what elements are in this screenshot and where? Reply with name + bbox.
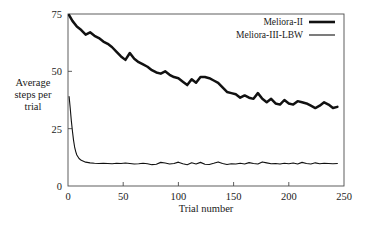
legend-label-meliora-ii: Meliora-II xyxy=(263,17,303,27)
x-tick-label: 250 xyxy=(336,191,352,202)
x-tick-label: 0 xyxy=(65,191,70,202)
x-axis-title: Trial number xyxy=(179,203,234,214)
chart-figure: 050100150200250 0255075 Trial number Ave… xyxy=(0,0,368,228)
x-tick-label: 50 xyxy=(118,191,129,202)
y-axis-title-line3: trial xyxy=(25,101,42,112)
x-tick-label: 200 xyxy=(281,191,297,202)
legend: Meliora-II Meliora-III-LBW xyxy=(236,17,335,40)
x-axis-ticks: 050100150200250 xyxy=(65,182,352,202)
x-tick-label: 150 xyxy=(226,191,242,202)
series-line-meliora-iii-lbw xyxy=(69,97,337,165)
y-tick-label: 25 xyxy=(52,124,63,135)
y-axis-title-line1: Average xyxy=(16,77,51,88)
line-chart: 050100150200250 0255075 Trial number Ave… xyxy=(0,0,368,228)
x-tick-label: 100 xyxy=(171,191,187,202)
y-axis-ticks: 0255075 xyxy=(52,9,73,192)
y-tick-label: 50 xyxy=(52,66,63,77)
y-axis-title-line2: steps per xyxy=(14,89,52,100)
y-tick-label: 0 xyxy=(57,181,62,192)
legend-label-meliora-iii-lbw: Meliora-III-LBW xyxy=(236,30,303,40)
y-tick-label: 75 xyxy=(52,9,63,20)
